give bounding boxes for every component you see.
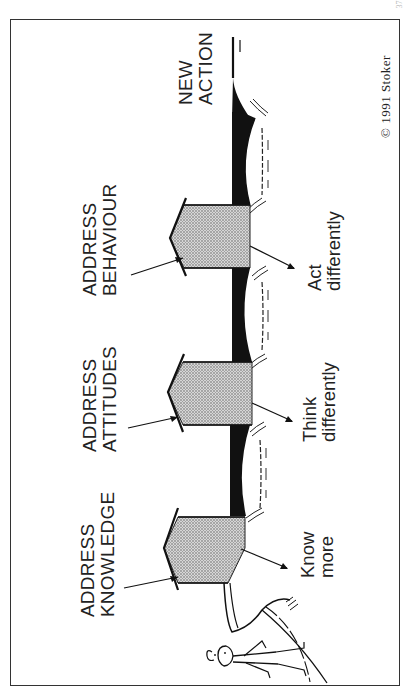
confused-stick-figure: [207, 641, 306, 678]
outcome-act-line2: differently: [324, 211, 343, 291]
deck-span-3: [232, 99, 268, 213]
address-behaviour-line1: ADDRESS: [80, 184, 100, 296]
pier-attitudes: [168, 354, 252, 432]
goal-label-line1: NEW: [176, 32, 196, 105]
deck-span-2: [232, 266, 268, 368]
address-knowledge-line1: ADDRESS: [78, 492, 98, 617]
outcome-act-line1: Act: [305, 211, 324, 291]
outcome-think-line1: Think: [300, 362, 319, 442]
outcome-act-differently: Act differently: [305, 211, 344, 291]
address-attitudes-line2: ATTITUDES: [100, 346, 120, 452]
address-knowledge-label: ADDRESS KNOWLEDGE: [78, 492, 118, 617]
address-knowledge-line2: KNOWLEDGE: [98, 492, 118, 617]
pier-behaviour: [170, 198, 250, 276]
address-behaviour-label: ADDRESS BEHAVIOUR: [80, 184, 120, 296]
deck-span-1: [230, 422, 266, 522]
outcome-think-line2: differently: [319, 362, 338, 442]
address-attitudes-line1: ADDRESS: [80, 346, 100, 452]
address-attitudes-label: ADDRESS ATTITUDES: [80, 346, 120, 452]
outcome-think-differently: Think differently: [300, 362, 339, 442]
outcome-know-line1: Know: [298, 532, 317, 578]
start-path: [224, 583, 327, 683]
copyright-notice: © 1991 Stoker: [379, 55, 393, 138]
outcome-know-more: Know more: [298, 532, 337, 578]
goal-label-line2: ACTION: [196, 32, 216, 105]
road-end-new-action: [232, 37, 250, 118]
address-behaviour-line2: BEHAVIOUR: [100, 184, 120, 296]
goal-label-new-action: NEW ACTION: [176, 32, 216, 105]
outcome-know-line2: more: [317, 532, 336, 578]
